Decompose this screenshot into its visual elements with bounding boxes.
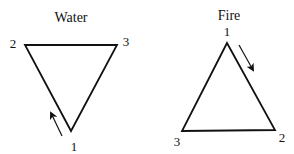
- water-title: Water: [54, 10, 87, 25]
- fire-diagram: Fire 1 2 3: [174, 8, 286, 149]
- water-vertex-2-label: 2: [10, 36, 17, 51]
- fire-title: Fire: [218, 8, 241, 23]
- water-diagram: Water 1 2 3: [10, 10, 130, 154]
- fire-triangle: [182, 43, 275, 131]
- water-vertex-3-label: 3: [123, 34, 130, 49]
- water-vertex-1-label: 1: [71, 139, 78, 154]
- water-triangle: [25, 45, 117, 131]
- fire-vertex-2-label: 2: [279, 130, 286, 145]
- triangle-diagrams: Water 1 2 3 Fire 1 2 3: [0, 0, 294, 154]
- water-direction-arrow-icon: [51, 113, 62, 136]
- fire-direction-arrow-icon: [239, 45, 253, 70]
- fire-vertex-3-label: 3: [174, 134, 181, 149]
- fire-vertex-1-label: 1: [224, 24, 231, 39]
